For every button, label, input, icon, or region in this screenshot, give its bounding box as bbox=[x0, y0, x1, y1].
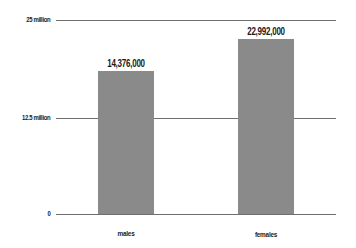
bar-chart: 25 million 12.5 million 0 14,376,000 22,… bbox=[0, 0, 356, 248]
ytick-label-25m: 25 million bbox=[26, 16, 50, 24]
ytick-label-zero: 0 bbox=[47, 210, 50, 218]
gridline-25m bbox=[56, 20, 336, 21]
data-label-females: 22,992,000 bbox=[230, 26, 302, 37]
ytick-label-12-5m: 12.5 million bbox=[22, 114, 50, 122]
data-label-males: 14,376,000 bbox=[90, 58, 162, 69]
bar-females bbox=[238, 39, 294, 214]
xtick-label-males: males bbox=[98, 229, 154, 238]
bar-males bbox=[98, 71, 154, 214]
gridline-zero bbox=[56, 214, 336, 215]
xtick-label-females: females bbox=[238, 230, 294, 239]
